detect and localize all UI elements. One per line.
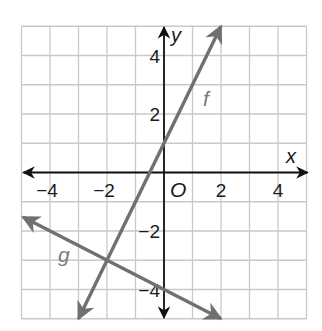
- axes: [24, 27, 308, 318]
- y-tick-label: 4: [149, 46, 160, 67]
- y-tick-label: −2: [138, 221, 160, 242]
- x-tick-label: −2: [93, 180, 115, 201]
- x-tick-label: 2: [216, 180, 227, 201]
- coordinate-plane: −4−22442−2−4 x y O fg: [0, 0, 322, 331]
- origin-label: O: [170, 178, 186, 201]
- y-tick-label: 2: [149, 104, 160, 125]
- line-f-label: f: [203, 87, 211, 110]
- x-tick-label: −4: [36, 180, 58, 201]
- y-axis-label: y: [169, 24, 182, 46]
- x-tick-label: 4: [273, 180, 284, 201]
- line-g-label: g: [58, 243, 70, 266]
- x-axis-label: x: [285, 145, 297, 167]
